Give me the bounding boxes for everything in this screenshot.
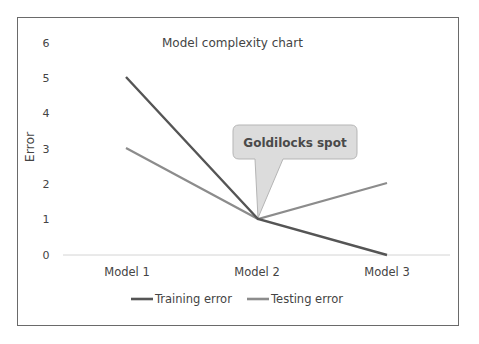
callout-text: Goldilocks spot xyxy=(243,136,347,150)
y-axis-ticks: 6 5 4 3 2 1 0 xyxy=(43,37,50,262)
y-tick: 1 xyxy=(43,213,50,226)
y-tick: 3 xyxy=(43,143,50,156)
y-axis-label: Error xyxy=(22,131,37,162)
x-axis-categories: Model 1 Model 2 Model 3 xyxy=(104,265,410,279)
legend-item-testing-error: Testing error xyxy=(247,292,343,306)
y-tick: 6 xyxy=(43,37,50,50)
y-tick: 0 xyxy=(43,249,50,262)
line-chart: Model complexity chart Error 6 5 4 3 2 1… xyxy=(0,0,479,344)
goldilocks-callout: Goldilocks spot xyxy=(233,125,357,218)
legend-label: Training error xyxy=(154,292,232,306)
x-category-label: Model 3 xyxy=(364,265,410,279)
y-tick: 4 xyxy=(43,107,50,120)
y-tick: 5 xyxy=(43,72,50,85)
legend-item-training-error: Training error xyxy=(131,292,232,306)
legend: Training error Testing error xyxy=(131,292,343,306)
x-category-label: Model 2 xyxy=(234,265,280,279)
x-category-label: Model 1 xyxy=(104,265,150,279)
chart-title: Model complexity chart xyxy=(162,36,303,50)
legend-label: Testing error xyxy=(270,292,343,306)
y-tick: 2 xyxy=(43,178,50,191)
